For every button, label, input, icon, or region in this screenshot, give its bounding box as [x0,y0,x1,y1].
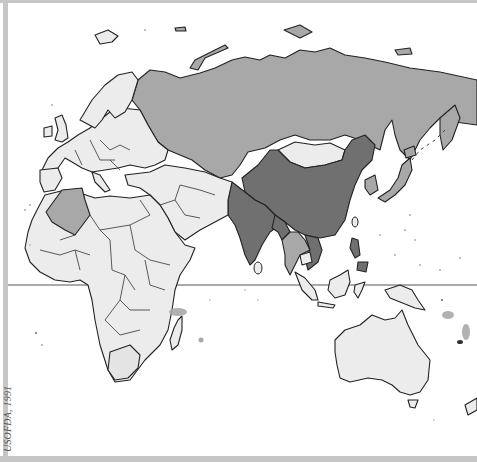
region-new-siberian-islands [395,48,412,55]
region-mauritius [199,338,204,343]
region-svalbard [95,30,118,44]
region-sri-lanka [254,262,262,274]
region-taiwan [352,217,358,227]
region-australia [335,310,430,395]
region-new-zealand [465,398,477,415]
region-comoros-seychelles [169,308,187,316]
frame-border-bottom [0,456,477,462]
map-frame: USOFDA, 1991 [0,0,477,462]
region-severnaya-zemlya [284,25,312,38]
region-vanuatu [462,324,470,340]
region-mindanao [357,262,368,272]
region-korea [365,175,378,195]
region-new-guinea [385,285,425,310]
region-solomon-islands [442,311,454,319]
region-ireland [44,126,52,137]
region-sulawesi [354,282,365,298]
region-new-caledonia [457,340,463,344]
region-sumatra [295,272,318,300]
region-philippines [350,238,360,258]
region-japan [378,158,412,202]
region-tasmania [408,400,418,408]
region-franz-josef [175,27,186,31]
region-java [318,302,335,308]
source-credit: USOFDA, 1991 [2,386,13,452]
frame-border-top [0,0,477,3]
region-italy [92,172,110,192]
region-cambodia [300,252,312,265]
region-great-britain [55,115,68,142]
region-iberia [40,168,62,192]
world-map [0,0,477,462]
region-madagascar [170,316,182,350]
region-borneo [328,270,350,298]
